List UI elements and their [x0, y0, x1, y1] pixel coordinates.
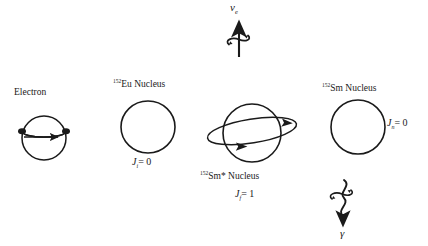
sm-spin-label: Jn= 0	[387, 118, 408, 128]
electron-label: Electron	[14, 88, 46, 98]
eu-spin-label: Ji= 0	[132, 157, 151, 167]
decay-diagram: Electron νe 152Eu Nucleus Ji= 0 152Sm* N…	[0, 0, 428, 246]
neutrino-arrow-glyph	[227, 22, 249, 57]
eu-spin-value: = 0	[138, 156, 151, 167]
sm-mass-number: 152	[322, 82, 330, 88]
sm-nucleus-label: 152Sm Nucleus	[322, 84, 376, 94]
eu-symbol: Eu Nucleus	[121, 79, 165, 89]
eu-nucleus-glyph	[121, 101, 175, 153]
sm-spin-value: = 0	[394, 117, 407, 128]
sm-excited-mass-number: 152	[200, 170, 208, 176]
sm-excited-spin-label: Jf= 1	[235, 189, 254, 199]
neutrino-subscript: e	[235, 8, 238, 15]
gamma-ray-glyph	[330, 180, 352, 225]
sm-symbol: Sm Nucleus	[330, 83, 376, 93]
sm-excited-nucleus-label: 152Sm* Nucleus	[200, 172, 259, 182]
electron-glyph	[18, 116, 70, 160]
diagram-vector-layer	[0, 0, 428, 246]
sm-excited-nucleus-glyph	[206, 104, 299, 162]
sm-excited-symbol: Sm* Nucleus	[208, 171, 259, 181]
eu-mass-number: 152	[113, 78, 121, 84]
sm-excited-spin-value: = 1	[241, 188, 254, 199]
neutrino-label: νe	[230, 2, 238, 13]
gamma-label: γ	[340, 228, 344, 239]
eu-nucleus-label: 152Eu Nucleus	[113, 80, 165, 90]
sm-nucleus-glyph	[331, 100, 385, 154]
